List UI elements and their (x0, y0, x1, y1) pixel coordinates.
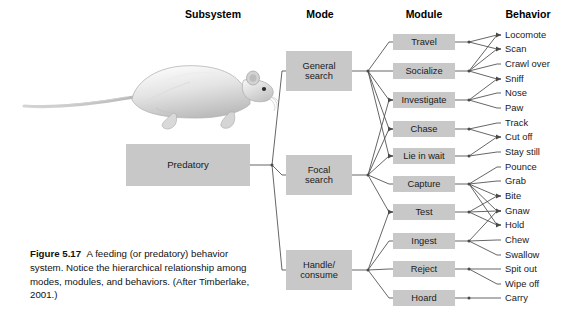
behavior-label-hold[interactable]: Hold (505, 220, 524, 229)
behavior-label-crawl-over[interactable]: Crawl over (505, 59, 550, 68)
mode-box-focal-search[interactable]: Focalsearch (286, 155, 352, 195)
behavior-label-locomote[interactable]: Locomote (505, 30, 546, 39)
module-box-investigate[interactable]: Investigate (393, 92, 455, 108)
behavior-label-sniff[interactable]: Sniff (505, 74, 524, 83)
behavior-label-cut-off[interactable]: Cut off (505, 132, 532, 141)
behavior-label-spit-out[interactable]: Spit out (505, 264, 537, 273)
behavior-label-grab[interactable]: Grab (505, 176, 526, 185)
module-box-reject[interactable]: Reject (393, 261, 455, 277)
behavior-label-bite[interactable]: Bite (505, 191, 521, 200)
module-box-travel[interactable]: Travel (393, 34, 455, 50)
behavior-label-swallow[interactable]: Swallow (505, 250, 539, 259)
behavior-label-pounce[interactable]: Pounce (505, 162, 537, 171)
behavior-label-paw[interactable]: Paw (505, 103, 523, 112)
behavior-label-track[interactable]: Track (505, 118, 528, 127)
figure-5-17-behavior-system-diagram: Subsystem Mode Module Behavior Predatory… (0, 0, 585, 323)
column-header-module: Module (406, 8, 443, 20)
figure-caption: Figure 5.17 A feeding (or predatory) beh… (30, 247, 256, 302)
column-header-subsystem: Subsystem (185, 8, 241, 20)
module-box-hoard[interactable]: Hoard (393, 290, 455, 306)
laboratory-rat-illustration (16, 56, 278, 142)
module-box-test[interactable]: Test (393, 204, 455, 220)
behavior-label-chew[interactable]: Chew (505, 235, 529, 244)
column-header-behavior: Behavior (506, 8, 551, 20)
behavior-label-wipe-off[interactable]: Wipe off (505, 279, 539, 288)
behavior-label-stay-still[interactable]: Stay still (505, 147, 540, 156)
figure-caption-label: Figure 5.17 (30, 248, 81, 259)
module-box-lie-in-wait[interactable]: Lie in wait (393, 148, 455, 164)
mode-box-general-search[interactable]: Generalsearch (286, 51, 352, 91)
behavior-label-carry[interactable]: Carry (505, 293, 528, 302)
behavior-label-nose[interactable]: Nose (505, 88, 527, 97)
module-box-socialize[interactable]: Socialize (393, 63, 455, 79)
behavior-label-gnaw[interactable]: Gnaw (505, 206, 530, 215)
column-header-mode: Mode (306, 8, 333, 20)
behavior-label-scan[interactable]: Scan (505, 44, 526, 53)
module-box-ingest[interactable]: Ingest (393, 233, 455, 249)
mode-box-handle-consume[interactable]: Handle/consume (286, 250, 352, 290)
module-box-chase[interactable]: Chase (393, 121, 455, 137)
subsystem-box-predatory[interactable]: Predatory (126, 144, 250, 186)
module-box-capture[interactable]: Capture (393, 176, 455, 192)
